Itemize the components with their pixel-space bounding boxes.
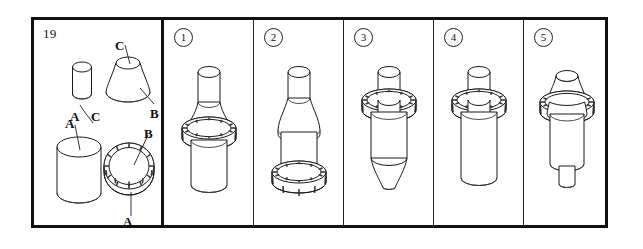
label-a-large: A	[65, 116, 74, 132]
option-number-2: 2	[264, 28, 283, 47]
option-panel-4[interactable]: 4	[434, 20, 523, 225]
small-cylinder-c-figure	[67, 58, 97, 108]
option-figure-2	[268, 60, 330, 200]
option-number-5: 5	[534, 28, 553, 47]
option-figure-4	[448, 60, 510, 200]
option-panel-1[interactable]: 1	[164, 20, 253, 225]
option-panel-5[interactable]: 5	[524, 20, 605, 225]
figure-frame: 19 A C C	[31, 17, 608, 228]
parts-panel: 19 A C C	[34, 20, 161, 225]
question-number: 19	[43, 26, 56, 42]
label-b-ring: B	[144, 126, 153, 142]
option-figure-1	[178, 60, 240, 200]
option-figure-3	[358, 60, 420, 200]
option-number-1: 1	[174, 28, 193, 47]
option-panel-3[interactable]: 3	[344, 20, 433, 225]
option-panel-2[interactable]: 2	[254, 20, 343, 225]
option-number-3: 3	[354, 28, 373, 47]
label-a-ring: A	[123, 214, 132, 230]
option-figure-5	[536, 60, 598, 200]
option-number-4: 4	[444, 28, 463, 47]
label-c-small: C	[91, 109, 100, 125]
label-c-top: C	[115, 38, 124, 54]
leader-c-cone	[122, 44, 138, 68]
label-b-cone: B	[150, 106, 159, 122]
question-figure: 19 A C C	[0, 0, 643, 249]
